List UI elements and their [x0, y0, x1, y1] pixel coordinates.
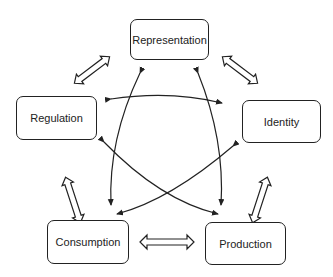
circuit-of-culture-diagram: Representation Identity Production Consu… — [0, 0, 333, 277]
node-label: Identity — [264, 116, 299, 128]
node-label: Regulation — [30, 112, 83, 124]
node-representation: Representation — [130, 19, 209, 60]
curve-regulation-production — [104, 142, 218, 214]
arrow-regulation-representation — [71, 52, 113, 88]
node-regulation: Regulation — [16, 96, 97, 140]
node-label: Representation — [132, 34, 207, 46]
arrow-regulation-consumption — [60, 175, 86, 224]
curve-identity-consumption — [117, 146, 233, 214]
arrow-consumption-production — [140, 235, 194, 249]
node-label: Consumption — [56, 236, 121, 248]
curved-arrows — [104, 73, 233, 214]
node-label: Production — [219, 238, 272, 250]
curve-representation-consumption — [111, 73, 140, 205]
node-identity: Identity — [242, 100, 321, 143]
node-production: Production — [205, 222, 286, 265]
arrow-identity-production — [247, 175, 273, 224]
arrow-representation-identity — [219, 52, 261, 88]
curve-representation-production — [198, 73, 222, 205]
node-consumption: Consumption — [47, 220, 129, 264]
